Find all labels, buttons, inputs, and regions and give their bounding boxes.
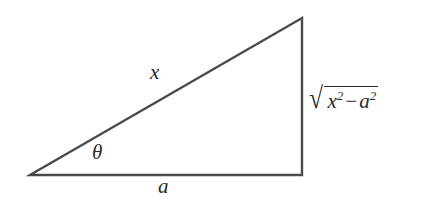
radical-sign-icon: √ <box>309 86 323 109</box>
right-triangle-shape <box>30 18 302 175</box>
base-label: a <box>158 176 169 197</box>
radicand-second-variable: a <box>359 89 370 113</box>
radicand: x2−a2 <box>324 86 378 112</box>
angle-theta-label: θ <box>92 142 102 163</box>
triangle-figure: x θ a √ x2−a2 <box>0 0 425 204</box>
radicand-first-variable: x <box>327 89 336 113</box>
hypotenuse-label: x <box>150 62 159 83</box>
vertical-side-radical-label: √ x2−a2 <box>309 86 378 112</box>
radicand-second-exponent: 2 <box>370 88 377 103</box>
radicand-operator: − <box>343 89 359 113</box>
